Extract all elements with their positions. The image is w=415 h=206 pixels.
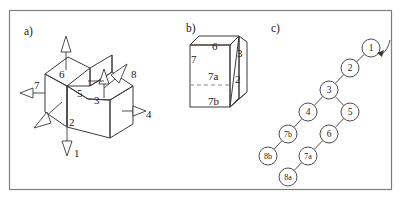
graph-node-label-8b: 8b bbox=[264, 152, 272, 161]
arrow-label-4: 4 bbox=[146, 109, 152, 120]
face-label-3: 3 bbox=[237, 48, 243, 59]
graph-edge-6-7a bbox=[314, 141, 323, 150]
face-label-7b: 7b bbox=[208, 96, 219, 107]
face-label-7: 7 bbox=[191, 54, 197, 65]
graph-node-label-7a: 7a bbox=[304, 152, 312, 161]
face-label-2: 2 bbox=[235, 74, 241, 85]
panel-label-b: b) bbox=[186, 23, 196, 35]
arrow-label-3: 3 bbox=[94, 95, 100, 106]
arrow-label-7: 7 bbox=[34, 80, 40, 91]
graph-node-label-5: 5 bbox=[348, 107, 353, 117]
graph-node-label-6: 6 bbox=[327, 129, 332, 139]
graph-nodes: 1234567b7a8b8a bbox=[259, 39, 380, 186]
graph-edge-4-7b bbox=[294, 119, 302, 128]
graph-edge-7b-8b bbox=[274, 141, 282, 150]
graph-edge-7a-8a bbox=[294, 163, 302, 171]
graph-node-label-4: 4 bbox=[306, 107, 311, 117]
arrow-3 bbox=[99, 69, 109, 98]
arrow-1 bbox=[62, 127, 72, 156]
graph-node-label-2: 2 bbox=[348, 63, 353, 73]
arrow-6 bbox=[61, 36, 71, 70]
graph-edge-5-6 bbox=[335, 119, 344, 128]
graph-node-label-1: 1 bbox=[369, 43, 374, 53]
panel-label-a: a) bbox=[24, 26, 33, 38]
graph-node-label-7b: 7b bbox=[284, 130, 292, 139]
graph-node-label-8a: 8a bbox=[284, 173, 292, 182]
arrow-label-6: 6 bbox=[59, 69, 65, 80]
arrow-label-2: 2 bbox=[69, 117, 75, 128]
panel-label-c: c) bbox=[271, 23, 280, 35]
arrow-label-5: 5 bbox=[77, 88, 83, 99]
arrow-7 bbox=[20, 88, 45, 98]
graph-edge-2-3 bbox=[335, 75, 344, 84]
graph-edge-1-2 bbox=[357, 54, 365, 62]
figure-canvas: 1234567b7a8b8a a)b)c)12345678677a7b32 bbox=[0, 0, 415, 206]
arrow-label-8: 8 bbox=[131, 69, 137, 80]
face-label-7a: 7a bbox=[208, 71, 218, 82]
graph-edge-3-5 bbox=[335, 97, 344, 106]
arrow-label-1: 1 bbox=[74, 148, 80, 159]
arrow-4 bbox=[122, 106, 146, 116]
arrow-2 bbox=[34, 102, 62, 128]
graph-node-label-3: 3 bbox=[327, 85, 332, 95]
graph-edge-3-4 bbox=[314, 97, 323, 106]
face-label-6: 6 bbox=[212, 41, 218, 52]
